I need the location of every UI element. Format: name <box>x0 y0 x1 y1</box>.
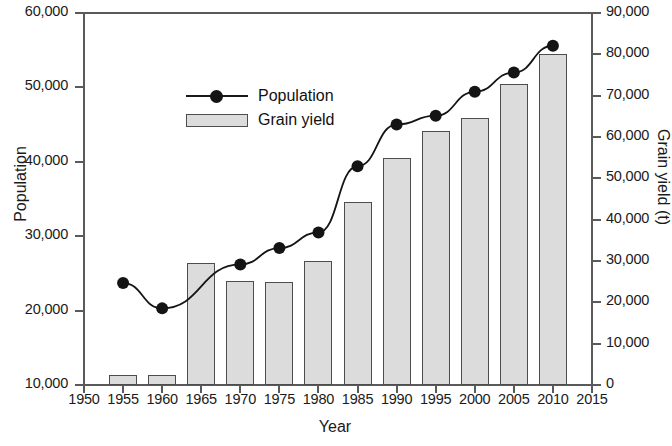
y-axis-right-tick-label: 50,000 <box>606 168 649 184</box>
y-axis-left-title: Population <box>12 119 30 249</box>
population-data-point <box>391 119 403 131</box>
y-axis-left-tick-label: 50,000 <box>0 77 68 93</box>
y-axis-right-tick-label: 10,000 <box>606 334 649 350</box>
legend-label-grain-yield: Grain yield <box>258 111 334 129</box>
bar-grain-yield <box>148 375 176 385</box>
bar-grain-yield <box>461 118 489 385</box>
y-axis-left-tick <box>75 161 84 163</box>
y-axis-right-line <box>591 12 593 386</box>
bar-grain-yield <box>109 375 137 385</box>
y-axis-right-tick <box>592 136 601 138</box>
bar-grain-yield <box>500 84 528 385</box>
y-axis-right-tick <box>592 219 601 221</box>
population-data-point <box>547 40 559 52</box>
y-axis-left-tick <box>75 12 84 14</box>
y-axis-left-tick-label: 30,000 <box>0 226 68 242</box>
y-axis-right-tick-label: 60,000 <box>606 127 649 143</box>
legend-item-grain-yield: Grain yield <box>186 108 334 132</box>
y-axis-left-tick <box>75 235 84 237</box>
axis-line-top <box>83 12 593 14</box>
y-axis-right-tick-label: 0 <box>606 375 614 391</box>
y-axis-right-tick-label: 40,000 <box>606 210 649 226</box>
legend-bar-swatch-icon <box>186 112 248 128</box>
population-data-point <box>117 277 129 289</box>
y-axis-right-tick <box>592 95 601 97</box>
y-axis-left-tick-label: 20,000 <box>0 301 68 317</box>
y-axis-right-tick <box>592 177 601 179</box>
legend-line-marker-icon <box>186 88 248 104</box>
population-data-point <box>508 67 520 79</box>
y-axis-left-tick-label: 10,000 <box>0 375 68 391</box>
y-axis-right-tick-label: 90,000 <box>606 3 649 19</box>
bar-grain-yield <box>539 54 567 385</box>
y-axis-right-tick <box>592 12 601 14</box>
y-axis-left-tick <box>75 310 84 312</box>
x-axis-tick-label: 2015 <box>562 391 622 407</box>
y-axis-right-tick <box>592 53 601 55</box>
y-axis-left-line <box>83 12 85 386</box>
y-axis-right-tick-label: 70,000 <box>606 86 649 102</box>
x-axis-title: Year <box>0 418 670 436</box>
population-data-point <box>352 160 364 172</box>
y-axis-right-tick <box>592 260 601 262</box>
bar-grain-yield <box>304 261 332 385</box>
y-axis-left-tick <box>75 86 84 88</box>
y-axis-right-tick-label: 20,000 <box>606 292 649 308</box>
y-axis-right-tick <box>592 384 601 386</box>
bar-grain-yield <box>344 202 372 385</box>
bar-grain-yield <box>226 281 254 385</box>
population-data-point <box>430 110 442 122</box>
chart-legend: Population Grain yield <box>186 84 334 132</box>
bar-grain-yield <box>187 263 215 385</box>
y-axis-left-tick-label: 60,000 <box>0 3 68 19</box>
population-data-point <box>234 258 246 270</box>
legend-label-population: Population <box>258 87 334 105</box>
bar-grain-yield <box>383 158 411 385</box>
y-axis-right-tick <box>592 343 601 345</box>
population-data-point <box>156 302 168 314</box>
population-data-point <box>469 86 481 98</box>
bar-grain-yield <box>265 282 293 385</box>
y-axis-right-tick <box>592 301 601 303</box>
y-axis-left-tick-label: 40,000 <box>0 152 68 168</box>
population-data-point <box>312 226 324 238</box>
bar-grain-yield <box>422 131 450 385</box>
population-data-point <box>273 242 285 254</box>
y-axis-right-tick-label: 30,000 <box>606 251 649 267</box>
y-axis-right-title: Grain yield (t) <box>654 112 672 242</box>
y-axis-right-tick-label: 80,000 <box>606 44 649 60</box>
legend-item-population: Population <box>186 84 334 108</box>
